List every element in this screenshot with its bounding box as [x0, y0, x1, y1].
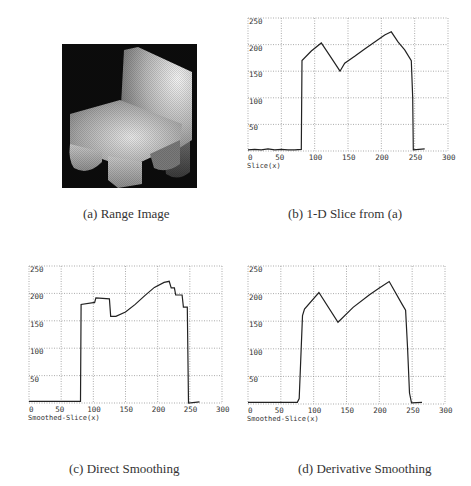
x-tick-label: 100 [87, 405, 101, 414]
x-tick-label: 50 [275, 406, 285, 415]
y-tick-label: 50 [249, 123, 259, 132]
y-tick-label: 150 [249, 70, 263, 79]
chair-range-image [62, 44, 197, 188]
plot-c: 50100150200250050100150200250300Smoothed… [0, 250, 240, 430]
caption-c: (c) Direct Smoothing [69, 461, 179, 477]
panel-a: (a) Range Image [0, 0, 240, 240]
y-tick-label: 150 [30, 320, 44, 329]
x-tick-label: 0 [248, 406, 253, 415]
plot-d: 50100150200250050100150200250300Smoothed… [240, 250, 471, 430]
y-tick-label: 200 [30, 292, 44, 301]
x-tick-label: 200 [152, 405, 166, 414]
data-line [248, 32, 425, 150]
x-tick-label: 300 [439, 406, 453, 415]
y-tick-label: 100 [30, 347, 44, 356]
x-tick-label: 250 [184, 405, 198, 414]
data-line [248, 282, 422, 403]
y-tick-label: 250 [30, 265, 44, 274]
caption-a: (a) Range Image [83, 206, 170, 222]
grid [248, 266, 445, 404]
x-tick-label: 300 [442, 153, 456, 162]
x-tick-label: 150 [120, 405, 134, 414]
y-tick-label: 250 [249, 17, 263, 26]
y-tick-label: 200 [249, 293, 263, 302]
x-tick-label: 0 [248, 153, 253, 162]
panel-b: 50100150200250050100150200250300Slice(x)… [240, 0, 471, 240]
x-tick-label: 200 [373, 406, 387, 415]
caption-b: (b) 1-D Slice from (a) [288, 206, 402, 222]
y-tick-label: 150 [249, 320, 263, 329]
panel-c: 50100150200250050100150200250300Smoothed… [0, 250, 240, 486]
data-line [29, 281, 200, 403]
x-tick-label: 100 [308, 406, 322, 415]
panel-d: 50100150200250050100150200250300Smoothed… [240, 250, 471, 486]
range-image [62, 44, 197, 188]
caption-d: (d) Derivative Smoothing [298, 461, 432, 477]
grid [29, 266, 222, 403]
y-tick-label: 250 [249, 265, 263, 274]
x-tick-label: 250 [406, 406, 420, 415]
x-tick-label: 50 [55, 405, 65, 414]
x-tick-label: 150 [341, 406, 355, 415]
grid [248, 18, 448, 151]
x-axis-label: Slice(x) [247, 162, 281, 170]
y-tick-label: 200 [249, 44, 263, 53]
x-tick-label: 50 [275, 153, 285, 162]
y-tick-label: 100 [249, 97, 263, 106]
x-tick-label: 300 [216, 405, 230, 414]
x-tick-label: 0 [29, 405, 34, 414]
x-axis-label: Smoothed-Slice(x) [247, 415, 319, 423]
x-axis-label: Smoothed-Slice(x) [28, 414, 100, 422]
plot-b: 50100150200250050100150200250300Slice(x) [240, 0, 471, 175]
y-tick-label: 50 [30, 375, 40, 384]
x-tick-label: 150 [342, 153, 356, 162]
x-tick-label: 200 [375, 153, 389, 162]
x-tick-label: 100 [309, 153, 323, 162]
y-tick-label: 50 [249, 375, 259, 384]
y-tick-label: 100 [249, 348, 263, 357]
x-tick-label: 250 [409, 153, 423, 162]
